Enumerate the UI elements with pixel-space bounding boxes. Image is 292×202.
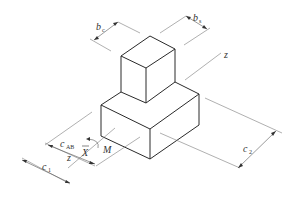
label-bc-main: b <box>96 21 101 32</box>
dimension-bc: b c <box>90 21 140 51</box>
label-bs-main: b <box>193 12 198 23</box>
svg-text:X: X <box>81 147 89 158</box>
base-reference-lines <box>22 112 140 184</box>
diagram-canvas: b c b s z c 2 c AB <box>0 0 292 202</box>
label-c1-sub: 1 <box>48 167 51 173</box>
label-moment: M <box>102 144 112 155</box>
dimension-bs: b s <box>160 12 210 45</box>
label-bc-sub: c <box>102 27 105 33</box>
label-cab-main: c <box>60 138 65 149</box>
label-bs-sub: s <box>199 18 202 24</box>
column-block <box>121 36 175 103</box>
label-c2-sub: 2 <box>249 149 252 155</box>
footing-block <box>101 82 199 159</box>
label-z-top: z <box>223 49 228 60</box>
label-c1-main: c <box>42 161 47 172</box>
z-axis-top: z <box>185 49 228 80</box>
x-bar-label: X <box>81 146 89 158</box>
label-c2-main: c <box>243 143 248 154</box>
dimension-c1: c 1 <box>22 160 70 183</box>
label-z-bottom: z <box>66 152 71 163</box>
label-cab-sub: AB <box>66 144 74 150</box>
